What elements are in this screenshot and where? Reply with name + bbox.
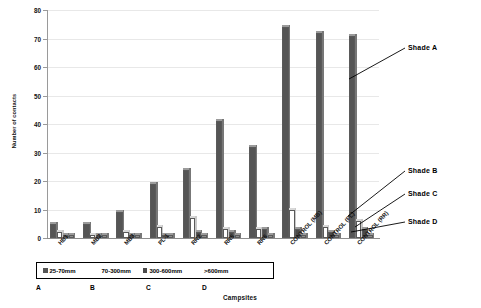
- bar[interactable]: [289, 210, 294, 239]
- bar-group: [83, 10, 116, 238]
- bar[interactable]: [249, 147, 255, 238]
- bar-side-3d: [140, 233, 142, 238]
- legend-item[interactable]: 70-300mm: [102, 268, 131, 274]
- bar-side-3d: [289, 25, 291, 238]
- legend-item[interactable]: >600mm: [204, 268, 228, 274]
- y-axis-tick: [43, 238, 47, 239]
- legend-swatch: [43, 268, 48, 273]
- bar-group: [116, 10, 149, 238]
- y-axis-tick: [43, 153, 47, 154]
- legend-label: 70-300mm: [102, 268, 131, 274]
- bar-group: [316, 10, 349, 238]
- y-axis-tick-label: 20: [25, 178, 41, 185]
- bar-side-3d: [207, 233, 209, 238]
- bar[interactable]: [316, 33, 322, 238]
- group-letter: B: [90, 284, 95, 291]
- y-axis-tick-label: 70: [25, 35, 41, 42]
- bar-side-3d: [273, 233, 275, 238]
- y-axis-tick-label: 80: [25, 7, 41, 14]
- y-axis-tick-label: 60: [25, 64, 41, 71]
- y-axis-tick-label: 30: [25, 149, 41, 156]
- legend-swatch: [143, 268, 148, 273]
- y-axis-tick-label: 0: [25, 235, 41, 242]
- y-axis-tick-label: 40: [25, 121, 41, 128]
- annotation-label: Shade A: [408, 44, 437, 51]
- bar-side-3d: [240, 233, 242, 238]
- bar-side-3d: [74, 233, 76, 238]
- bar-chart-figure: Number of contacts Campsites 01020304050…: [0, 0, 481, 308]
- bar-side-3d: [355, 34, 357, 238]
- y-axis-tick: [43, 210, 47, 211]
- bar-group: [216, 10, 249, 238]
- annotation-label: Shade B: [408, 167, 437, 174]
- bar[interactable]: [50, 224, 56, 238]
- bar-group: [249, 10, 282, 238]
- bar[interactable]: [116, 212, 122, 238]
- bar-side-3d: [222, 119, 224, 238]
- y-axis-tick-label: 50: [25, 92, 41, 99]
- legend-label: 300-600mm: [149, 268, 182, 274]
- group-letter: A: [36, 284, 41, 291]
- y-axis-tick: [43, 39, 47, 40]
- y-axis-tick: [43, 10, 47, 11]
- bar-side-3d: [306, 233, 308, 238]
- bar[interactable]: [150, 184, 156, 238]
- y-axis-tick-label: 10: [25, 206, 41, 213]
- bar-side-3d: [256, 145, 258, 238]
- bar-group: [50, 10, 83, 238]
- plot-area: 01020304050607080 HB1MB2MB3PL-1RR2RR5RR6…: [47, 10, 379, 238]
- y-axis-tick: [43, 124, 47, 125]
- y-axis-tick: [43, 96, 47, 97]
- legend-label: >600mm: [204, 268, 228, 274]
- bar-side-3d: [107, 233, 109, 238]
- annotation-label: Shade D: [408, 218, 437, 225]
- bar[interactable]: [190, 218, 195, 238]
- y-axis-tick: [43, 67, 47, 68]
- bar-side-3d: [322, 31, 324, 238]
- legend-label: 25-70mm: [50, 268, 76, 274]
- bar-side-3d: [339, 233, 341, 238]
- y-axis-title: Number of contacts: [11, 61, 17, 181]
- group-letter: C: [146, 284, 151, 291]
- bar[interactable]: [282, 27, 288, 238]
- bar-group: [183, 10, 216, 238]
- x-axis-title: Campsites: [190, 294, 290, 301]
- bar[interactable]: [216, 121, 222, 238]
- bar-side-3d: [373, 233, 375, 238]
- group-letter: D: [202, 284, 207, 291]
- chart-legend: 25-70mm70-300mm300-600mm>600mm: [36, 262, 274, 279]
- bar[interactable]: [183, 170, 189, 238]
- bar-side-3d: [173, 233, 175, 238]
- y-axis-tick: [43, 181, 47, 182]
- bar-group: [150, 10, 183, 238]
- bar-group: [349, 10, 382, 238]
- bar-group: [282, 10, 315, 238]
- annotation-label: Shade C: [408, 190, 437, 197]
- bar[interactable]: [83, 224, 89, 238]
- legend-item[interactable]: 25-70mm: [43, 268, 76, 274]
- legend-item[interactable]: 300-600mm: [143, 268, 182, 274]
- bar[interactable]: [349, 36, 355, 238]
